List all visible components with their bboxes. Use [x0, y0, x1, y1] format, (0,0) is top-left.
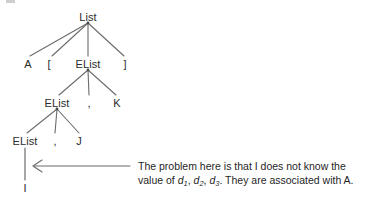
node-elist-3: EList	[13, 135, 38, 147]
edge-group-elist2	[27, 109, 79, 133]
annotation-line-2-suffix: . They are associated with A.	[219, 174, 353, 186]
node-j: J	[76, 135, 82, 147]
node-i: I	[23, 182, 26, 194]
diagram-canvas: List A [ EList ] EList , K EList , J I T…	[0, 0, 379, 197]
edge-elist2-elist3	[27, 109, 57, 133]
variable-d1: d1	[178, 174, 188, 186]
node-k: K	[113, 97, 120, 109]
edge-group-elist1	[59, 70, 116, 95]
edge-list-a	[30, 23, 88, 56]
edge-elist1-k	[88, 70, 116, 95]
edge-group-list	[30, 23, 124, 56]
node-a: A	[24, 58, 31, 70]
node-comma-1: ,	[87, 97, 90, 109]
edge-elist1-comma	[88, 70, 89, 95]
variable-d3: d3	[209, 174, 219, 186]
edge-elist2-j	[57, 109, 79, 133]
edge-list-rbrack	[88, 23, 124, 56]
node-right-bracket: ]	[123, 58, 126, 70]
annotation-arrow	[33, 160, 130, 172]
arrow-head-icon	[33, 160, 42, 172]
annotation-line-2-prefix: value of	[138, 174, 178, 186]
edge-list-lbrack	[52, 23, 88, 56]
annotation-line-2: value of d1, d2, d3. They are associated…	[138, 173, 353, 189]
node-list: List	[79, 11, 97, 23]
node-comma-2: ,	[53, 135, 56, 147]
node-left-bracket: [	[47, 58, 50, 70]
annotation-text-block: The problem here is that I does not know…	[138, 159, 353, 189]
scan-artifact	[6, 0, 15, 3]
node-elist-1: EList	[76, 58, 101, 70]
edge-elist2-comma	[55, 109, 57, 133]
edge-elist1-elist2	[59, 70, 88, 95]
node-elist-2: EList	[45, 97, 70, 109]
variable-d2: d2	[194, 174, 204, 186]
annotation-line-1: The problem here is that I does not know…	[138, 159, 353, 173]
